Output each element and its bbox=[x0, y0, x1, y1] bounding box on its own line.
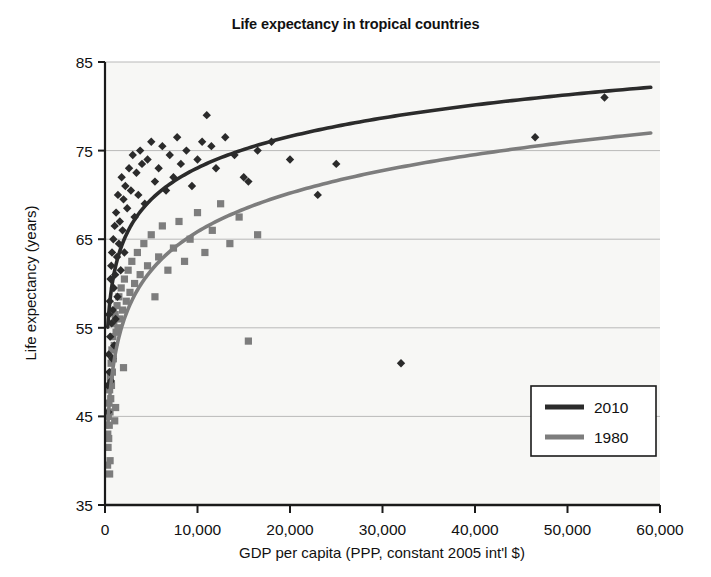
data-point bbox=[151, 293, 158, 300]
data-point bbox=[236, 213, 243, 220]
data-point bbox=[245, 337, 252, 344]
data-point bbox=[131, 280, 138, 287]
data-point bbox=[105, 435, 112, 442]
y-tick-label: 45 bbox=[76, 408, 93, 425]
x-tick-label: 30,000 bbox=[359, 521, 407, 538]
scatter-plot: 354555657585 010,00020,00030,00040,00050… bbox=[0, 0, 711, 577]
data-point bbox=[144, 262, 151, 269]
data-point bbox=[140, 240, 147, 247]
data-point bbox=[194, 209, 201, 216]
chart-figure: Life expectancy in tropical countries 35… bbox=[0, 0, 711, 577]
x-axis-title: GDP per capita (PPP, constant 2005 int'l… bbox=[239, 544, 525, 561]
data-point bbox=[125, 267, 132, 274]
data-point bbox=[134, 249, 141, 256]
x-axis-ticks: 010,00020,00030,00040,00050,00060,000 bbox=[101, 505, 684, 538]
x-tick-label: 10,000 bbox=[174, 521, 222, 538]
data-point bbox=[137, 271, 144, 278]
data-point bbox=[128, 258, 135, 265]
data-point bbox=[254, 231, 261, 238]
x-tick-label: 40,000 bbox=[451, 521, 499, 538]
data-point bbox=[111, 417, 118, 424]
y-axis-ticks: 354555657585 bbox=[76, 54, 105, 514]
y-tick-label: 85 bbox=[76, 54, 93, 71]
data-point bbox=[175, 218, 182, 225]
chart-legend: 2010 1980 bbox=[531, 386, 656, 456]
data-point bbox=[106, 470, 113, 477]
data-point bbox=[126, 289, 133, 296]
data-point bbox=[226, 240, 233, 247]
x-tick-label: 20,000 bbox=[266, 521, 314, 538]
data-point bbox=[121, 275, 128, 282]
data-point bbox=[217, 200, 224, 207]
data-point bbox=[120, 364, 127, 371]
x-tick-label: 50,000 bbox=[544, 521, 592, 538]
x-tick-label: 60,000 bbox=[636, 521, 684, 538]
data-point bbox=[112, 404, 119, 411]
data-point bbox=[201, 249, 208, 256]
x-tick-label: 0 bbox=[101, 521, 110, 538]
data-point bbox=[181, 258, 188, 265]
y-tick-label: 65 bbox=[76, 231, 93, 248]
y-tick-label: 55 bbox=[76, 320, 93, 337]
y-tick-label: 75 bbox=[76, 143, 93, 160]
legend-label-1980: 1980 bbox=[594, 429, 629, 446]
legend-label-2010: 2010 bbox=[594, 399, 629, 416]
data-point bbox=[118, 284, 125, 291]
y-tick-label: 35 bbox=[76, 497, 93, 514]
data-point bbox=[164, 267, 171, 274]
data-point bbox=[159, 222, 166, 229]
data-point bbox=[148, 231, 155, 238]
y-axis-title: Life expectancy (years) bbox=[22, 205, 39, 360]
data-point bbox=[106, 457, 113, 464]
data-point bbox=[209, 227, 216, 234]
